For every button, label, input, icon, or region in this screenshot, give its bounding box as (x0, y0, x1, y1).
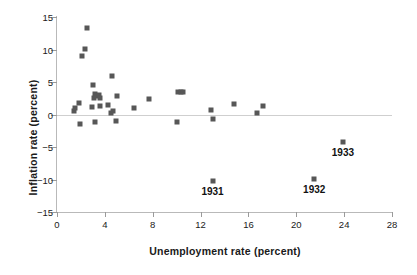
data-point (232, 102, 237, 107)
data-point (114, 93, 119, 98)
data-point (210, 117, 215, 122)
data-point (80, 54, 85, 59)
data-point (110, 73, 115, 78)
x-tick-mark (344, 212, 345, 217)
x-axis-line (56, 212, 393, 213)
data-point (106, 102, 111, 107)
data-point (111, 109, 116, 114)
data-point (89, 104, 94, 109)
data-point (260, 104, 265, 109)
x-tick-label: 20 (291, 219, 302, 230)
y-tick-label: 15 (42, 12, 53, 23)
y-tick-label: −5 (42, 142, 53, 153)
data-point (340, 140, 345, 145)
data-point (84, 26, 89, 31)
x-tick-mark (201, 212, 202, 217)
point-annotation-1933: 1933 (332, 147, 354, 158)
y-tick-label: 0 (48, 109, 53, 120)
y-axis-title: Inflation rate (percent) (22, 0, 44, 275)
point-annotation-1932: 1932 (303, 184, 325, 195)
data-point (210, 178, 215, 183)
x-tick-label: 28 (387, 219, 398, 230)
data-point (98, 96, 103, 101)
y-tick-label: 5 (48, 77, 53, 88)
x-tick-mark (248, 212, 249, 217)
x-tick-label: 4 (102, 219, 107, 230)
data-point (77, 122, 82, 127)
x-tick-mark (296, 212, 297, 217)
x-tick-mark (392, 212, 393, 217)
plot-area: 151050−5−10−15 0481216202428 19311932193… (57, 17, 392, 212)
point-annotation-1931: 1931 (201, 186, 223, 197)
x-tick-label: 12 (195, 219, 206, 230)
data-point (147, 96, 152, 101)
data-point (72, 106, 77, 111)
data-point (312, 176, 317, 181)
x-tick-label: 8 (150, 219, 155, 230)
x-axis-title: Unemployment rate (percent) (57, 245, 393, 257)
data-point (209, 107, 214, 112)
data-point (93, 119, 98, 124)
x-tick-label: 0 (54, 219, 59, 230)
x-tick-mark (57, 212, 58, 217)
x-tick-label: 24 (339, 219, 350, 230)
y-tick-label: −15 (37, 207, 53, 218)
data-point (180, 90, 185, 95)
zero-reference-line (57, 115, 392, 116)
data-point (113, 119, 118, 124)
x-tick-mark (153, 212, 154, 217)
x-tick-label: 16 (243, 219, 254, 230)
data-point (76, 100, 81, 105)
y-tick-label: 10 (42, 44, 53, 55)
y-tick-label: −10 (37, 174, 53, 185)
data-point (82, 46, 87, 51)
scatter-plot-figure: Inflation rate (percent) Unemployment ra… (0, 0, 417, 275)
x-tick-mark (105, 212, 106, 217)
data-point (98, 104, 103, 109)
data-point (90, 82, 95, 87)
data-point (131, 106, 136, 111)
data-point (254, 110, 259, 115)
data-point (174, 119, 179, 124)
